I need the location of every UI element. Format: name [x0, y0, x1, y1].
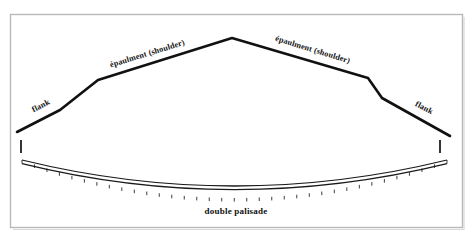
figure-container: épaulment (shoulder) épaulment (shoulder… [0, 0, 473, 239]
figure-frame [11, 15, 463, 228]
palisade-caption: double palisade [205, 206, 268, 216]
bastion-diagram-svg: épaulment (shoulder) épaulment (shoulder… [0, 0, 473, 239]
